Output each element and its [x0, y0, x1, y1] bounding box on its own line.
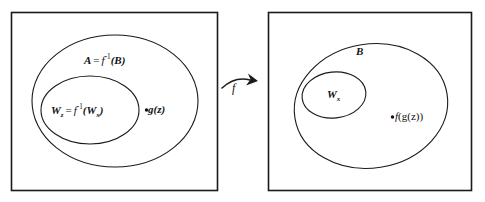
label-point-fgz: f(g(z)): [395, 111, 423, 122]
figure-canvas: [0, 0, 485, 202]
map-arrow-curve: [222, 79, 250, 88]
label-Wz-arg-close: ): [100, 104, 104, 116]
label-point-gz: g(z): [148, 104, 165, 115]
label-set-Wz: Wz=f-1(Wx): [51, 104, 103, 119]
label-set-B: B: [356, 46, 363, 57]
label-set-A: A=f-1(B): [84, 54, 125, 66]
point-fgz-dot: [391, 115, 394, 118]
label-set-Wx: Wx: [327, 89, 340, 103]
label-Wz-arg: W: [86, 104, 96, 116]
label-Wx-subscript: x: [337, 95, 340, 102]
label-A-lhs: A: [84, 54, 91, 66]
label-Wx-text: W: [327, 88, 337, 100]
label-A-equals: =: [93, 54, 99, 66]
label-arrow-f: f: [232, 82, 235, 94]
label-Wz-lhs-subscript: z: [61, 111, 64, 118]
label-fgz-arg: (g(z)): [398, 110, 423, 122]
label-Wz-equals: =: [65, 104, 71, 116]
set-theory-figure: A=f-1(B) Wz=f-1(Wx) g(z) f B Wx f(g(z)): [0, 0, 485, 202]
codomain-box-outline: [269, 13, 472, 191]
label-A-arg: (B): [111, 54, 126, 66]
label-Wz-lhs: W: [51, 104, 61, 116]
label-gz-arg: (z): [154, 103, 166, 115]
